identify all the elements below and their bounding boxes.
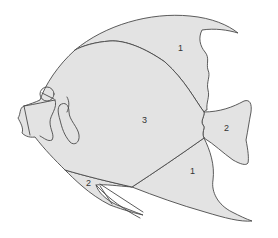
fish-regions [18,15,252,221]
fish-diagram: 1 3 2 1 2 [0,0,278,238]
label-dorsal-fin: 1 [178,43,183,53]
label-pelvic-fin: 2 [86,178,91,188]
label-anal-fin: 1 [190,166,195,176]
label-tail-fin: 2 [224,123,229,133]
label-body: 3 [142,115,147,125]
